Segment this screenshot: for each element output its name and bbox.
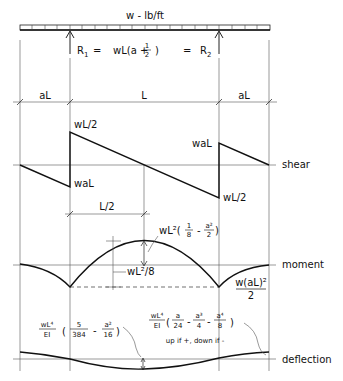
deflection-midspan-formula: wL⁴ EI ( 5 384 - a² 16 ) bbox=[39, 321, 120, 339]
svg-text:8: 8 bbox=[218, 322, 222, 330]
svg-text:2: 2 bbox=[207, 231, 211, 239]
svg-text:(: ( bbox=[166, 317, 170, 328]
svg-text:=: = bbox=[183, 45, 191, 56]
svg-text:4: 4 bbox=[197, 322, 202, 330]
svg-text:w(aL)²: w(aL)² bbox=[235, 277, 267, 288]
svg-text:=: = bbox=[93, 45, 101, 56]
svg-text:wL(a +: wL(a + bbox=[113, 45, 148, 56]
svg-text:): ) bbox=[155, 45, 159, 56]
reaction-equation: R 1 = wL(a + 1 2 ) = R 2 bbox=[77, 42, 211, 59]
moment-simple-span: wL²/8 bbox=[127, 266, 155, 277]
shear-right-peak: waL bbox=[192, 138, 212, 149]
svg-text:R: R bbox=[77, 45, 84, 56]
deflection-note: up if +, down if - bbox=[166, 337, 225, 345]
svg-text:-: - bbox=[187, 316, 191, 327]
dim-right: aL bbox=[238, 90, 250, 101]
moment-curve bbox=[20, 241, 269, 288]
svg-text:a³: a³ bbox=[195, 312, 202, 320]
svg-text:(: ( bbox=[62, 326, 66, 337]
svg-text:8: 8 bbox=[187, 231, 191, 239]
svg-text:EI: EI bbox=[154, 322, 161, 330]
load-label: w - lb/ft bbox=[126, 10, 164, 21]
svg-text:5: 5 bbox=[77, 321, 81, 329]
svg-text:): ) bbox=[215, 225, 219, 236]
shear-left-peak: wL/2 bbox=[74, 119, 97, 130]
svg-text:-: - bbox=[207, 316, 211, 327]
shear-left-neg: waL bbox=[74, 178, 94, 189]
shear-label: shear bbox=[282, 159, 311, 170]
svg-text:EI: EI bbox=[44, 331, 51, 339]
svg-text:1: 1 bbox=[145, 42, 149, 50]
svg-text:R: R bbox=[200, 45, 207, 56]
svg-text:24: 24 bbox=[174, 322, 183, 330]
moment-peak-formula: wL²( 1 8 - a² 2 ) bbox=[159, 222, 219, 239]
svg-text:1: 1 bbox=[187, 222, 191, 230]
deflection-label: deflection bbox=[282, 354, 332, 365]
shear-right-neg: wL/2 bbox=[223, 192, 246, 203]
svg-text:): ) bbox=[230, 317, 234, 328]
svg-text:2: 2 bbox=[145, 51, 149, 59]
svg-text:-: - bbox=[93, 325, 97, 336]
svg-text:wL⁴: wL⁴ bbox=[41, 321, 54, 329]
svg-text:16: 16 bbox=[104, 331, 113, 339]
svg-text:a²: a² bbox=[205, 222, 212, 230]
svg-text:384: 384 bbox=[72, 331, 86, 339]
reaction-arrow-left bbox=[66, 31, 74, 54]
svg-text:a⁴: a⁴ bbox=[216, 312, 223, 320]
distributed-load bbox=[20, 25, 270, 30]
half-span-label: L/2 bbox=[99, 201, 114, 212]
dim-middle: L bbox=[141, 90, 147, 101]
svg-text:1: 1 bbox=[84, 51, 88, 59]
svg-text:a: a bbox=[176, 312, 180, 320]
svg-text:-: - bbox=[197, 225, 201, 236]
dim-left: aL bbox=[39, 90, 51, 101]
svg-text:a²: a² bbox=[104, 321, 111, 329]
svg-text:wL²(: wL²( bbox=[159, 225, 181, 236]
beam-diagram: w - lb/ft R 1 = wL(a + 1 2 ) = R 2 bbox=[0, 0, 343, 381]
moment-support-formula: w(aL)² 2 bbox=[235, 277, 267, 301]
svg-text:): ) bbox=[116, 326, 120, 337]
moment-label: moment bbox=[282, 259, 324, 270]
deflection-overhang-formula: wL⁴ EI ( a 24 - a³ 4 - a⁴ 8 ) bbox=[149, 312, 234, 330]
svg-text:2: 2 bbox=[248, 290, 254, 301]
svg-text:2: 2 bbox=[207, 51, 211, 59]
svg-text:wL⁴: wL⁴ bbox=[151, 312, 164, 320]
reaction-arrow-right bbox=[215, 31, 223, 54]
